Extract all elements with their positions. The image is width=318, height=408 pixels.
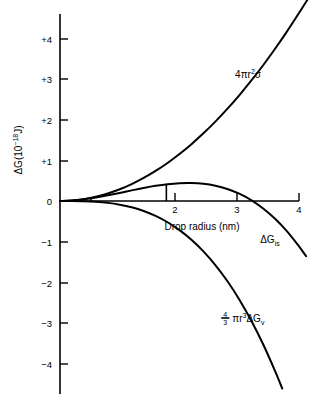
y-tick-label: −4 — [41, 359, 52, 370]
y-tick-label: +4 — [41, 34, 52, 45]
y-axis-title-main: ΔG(10 — [13, 145, 24, 174]
y-axis-tick-labels: +4 +3 +2 +1 0 −1 −2 −3 −4 — [41, 34, 52, 370]
y-tick-label: −2 — [41, 278, 52, 289]
y-axis-title-exponent: −18 — [12, 134, 19, 146]
label-volume-numerator: 4 — [223, 311, 227, 318]
x-axis-ticks — [175, 193, 299, 201]
label-surface-coef: 4πr — [235, 69, 251, 80]
y-tick-label: 0 — [47, 196, 52, 207]
curve-label-surface-energy: 4πr2σ — [235, 68, 262, 80]
y-tick-label: −1 — [41, 237, 52, 248]
nucleation-free-energy-chart: +4 +3 +2 +1 0 −1 −2 −3 −4 2 3 4 Drop rad… — [0, 0, 318, 408]
y-axis-title: ΔG(10−18J) — [12, 125, 24, 174]
curve-surface-energy — [60, 0, 308, 201]
chart-canvas: +4 +3 +2 +1 0 −1 −2 −3 −4 2 3 4 Drop rad… — [0, 0, 318, 408]
y-tick-label: +2 — [41, 115, 52, 126]
svg-text:πr3ΔGv: πr3ΔGv — [232, 312, 265, 326]
y-tick-label: +3 — [41, 74, 52, 85]
label-surface-tail: σ — [255, 69, 262, 80]
curve-label-total-energy: ΔGis — [260, 234, 280, 247]
label-volume-denominator: 3 — [223, 319, 227, 326]
label-volume-tail: ΔG — [246, 313, 261, 324]
y-tick-label: +1 — [41, 156, 52, 167]
y-tick-label: −3 — [41, 318, 52, 329]
x-axis-tick-labels: 2 3 4 — [172, 204, 301, 215]
svg-text:ΔG(10−18J): ΔG(10−18J) — [12, 125, 24, 174]
x-tick-label: 3 — [234, 204, 239, 215]
x-tick-label: 4 — [296, 204, 301, 215]
curve-label-volume-energy: 4 3 πr3ΔGv — [221, 311, 265, 327]
curve-total-energy — [60, 183, 306, 256]
x-tick-label: 2 — [172, 204, 177, 215]
label-volume-sub: v — [261, 319, 265, 326]
y-axis-title-unit: J) — [13, 125, 24, 133]
label-total-sub: is — [275, 240, 281, 247]
label-total-main: ΔG — [260, 234, 275, 245]
